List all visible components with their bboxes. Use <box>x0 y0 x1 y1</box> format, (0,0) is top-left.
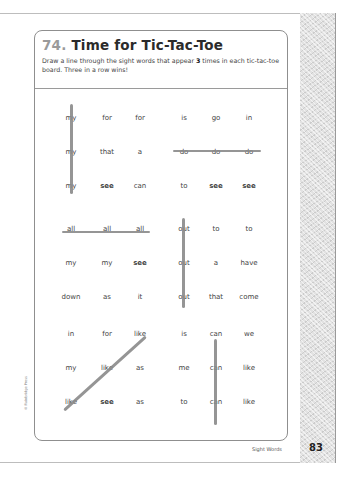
win-line-board-1 <box>70 104 73 194</box>
win-line-board-6 <box>214 339 217 425</box>
word-cell: my <box>53 259 89 267</box>
word-cell: as <box>89 293 125 301</box>
word-cell: like <box>122 330 158 338</box>
word-cell: in <box>53 330 89 338</box>
word-cell: a <box>122 148 158 156</box>
textured-margin-strip <box>300 13 336 463</box>
activity-number: 74. <box>42 37 67 53</box>
win-line-board-3 <box>62 231 150 233</box>
word-cell: my <box>53 364 89 372</box>
copyright-note: © Rainbridge Press <box>24 376 28 410</box>
instructions: Draw a line through the sight words that… <box>42 56 280 74</box>
word-cell: can <box>122 182 158 190</box>
word-cell: it <box>122 293 158 301</box>
word-cell: that <box>89 148 125 156</box>
activity-header: 74. Time for Tic-Tac-Toe Draw a line thr… <box>35 31 287 89</box>
word-cell: to <box>231 225 267 233</box>
word-cell: a <box>198 259 234 267</box>
word-cell: go <box>198 114 234 122</box>
win-line-board-2 <box>173 150 261 152</box>
activity-card: 74. Time for Tic-Tac-Toe Draw a line thr… <box>34 30 288 441</box>
word-cell: we <box>231 330 267 338</box>
word-cell: for <box>89 330 125 338</box>
word-cell: to <box>166 398 202 406</box>
word-cell: see <box>89 182 125 190</box>
word-cell: like <box>231 398 267 406</box>
word-cell: to <box>166 182 202 190</box>
word-cell: see <box>89 398 125 406</box>
word-cell: can <box>198 330 234 338</box>
page-number: 83 <box>309 442 323 453</box>
word-cell: as <box>122 364 158 372</box>
word-cell: for <box>89 114 125 122</box>
page-title: 74. Time for Tic-Tac-Toe <box>42 37 280 53</box>
activity-title: Time for Tic-Tac-Toe <box>71 37 223 53</box>
instruction-text: Draw a line through the sight words that… <box>42 57 196 64</box>
word-cell: like <box>231 364 267 372</box>
win-line-board-4 <box>182 218 185 308</box>
word-cell: is <box>166 330 202 338</box>
section-label: Sight Words <box>252 446 282 452</box>
word-cell: see <box>122 259 158 267</box>
word-cell: see <box>231 182 267 190</box>
word-cell: see <box>198 182 234 190</box>
word-cell: that <box>198 293 234 301</box>
word-cell: have <box>231 259 267 267</box>
word-cell: for <box>122 114 158 122</box>
word-cell: my <box>89 259 125 267</box>
word-cell: as <box>122 398 158 406</box>
word-cell: come <box>231 293 267 301</box>
word-cell: to <box>198 225 234 233</box>
word-cell: down <box>53 293 89 301</box>
word-cell: in <box>231 114 267 122</box>
word-cell: me <box>166 364 202 372</box>
word-cell: is <box>166 114 202 122</box>
